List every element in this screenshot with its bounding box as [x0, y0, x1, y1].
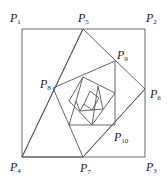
label-p7: P7 [80, 162, 91, 176]
inner-link-c [80, 104, 84, 111]
label-p9: P9 [117, 49, 128, 63]
label-p8: P8 [40, 78, 51, 92]
diagram-canvas [0, 0, 167, 179]
label-p3: P3 [146, 161, 157, 175]
label-p2: P2 [146, 12, 157, 26]
inner-link-b [92, 86, 98, 125]
line-p8-p9 [53, 61, 115, 88]
label-p10: P10 [114, 131, 128, 145]
label-p6: P6 [150, 88, 161, 102]
label-p4: P4 [10, 161, 21, 175]
line-p8-p7 [53, 88, 83, 157]
label-p5: P5 [78, 12, 89, 26]
label-p1: P1 [10, 12, 21, 26]
